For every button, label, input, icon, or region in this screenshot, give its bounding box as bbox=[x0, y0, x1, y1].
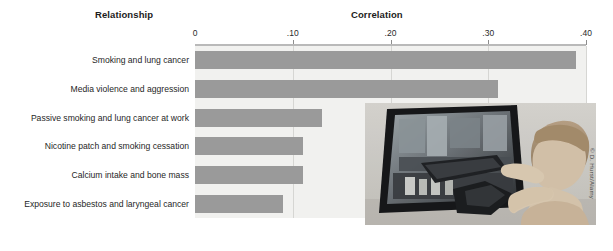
column-header-relationship: Relationship bbox=[95, 9, 153, 20]
axis-tick-label: .20 bbox=[385, 28, 397, 38]
axis-tick-label: 0 bbox=[193, 28, 198, 38]
axis-tick-label: .40 bbox=[580, 28, 592, 38]
column-header-correlation: Correlation bbox=[351, 9, 403, 20]
bar bbox=[195, 109, 322, 127]
category-label-column: Smoking and lung cancerMedia violence an… bbox=[0, 46, 189, 218]
arcade-game-photo bbox=[365, 103, 596, 225]
x-axis: 0.10.20.30.40 bbox=[195, 28, 585, 45]
bar-row bbox=[195, 80, 586, 98]
category-label: Calcium intake and bone mass bbox=[3, 166, 189, 184]
axis-tick-label: .30 bbox=[482, 28, 494, 38]
bar bbox=[195, 195, 283, 213]
category-label: Smoking and lung cancer bbox=[3, 51, 189, 69]
photo-credit: © D. Hurst/Alamy bbox=[589, 148, 596, 199]
category-label: Media violence and aggression bbox=[3, 80, 189, 98]
correlation-bar-chart-figure: Relationship Correlation 0.10.20.30.40 S… bbox=[0, 0, 613, 251]
category-label: Exposure to asbestos and laryngeal cance… bbox=[3, 195, 189, 213]
bar-row bbox=[195, 51, 586, 69]
category-label: Nicotine patch and smoking cessation bbox=[3, 137, 189, 155]
axis-tick-label: .10 bbox=[287, 28, 299, 38]
bar bbox=[195, 80, 498, 98]
axis-tick-mark bbox=[586, 40, 587, 45]
bar bbox=[195, 137, 303, 155]
gridline bbox=[293, 46, 294, 218]
bar bbox=[195, 166, 303, 184]
photo-artwork bbox=[365, 103, 596, 225]
category-label: Passive smoking and lung cancer at work bbox=[3, 109, 189, 127]
bar bbox=[195, 51, 576, 69]
